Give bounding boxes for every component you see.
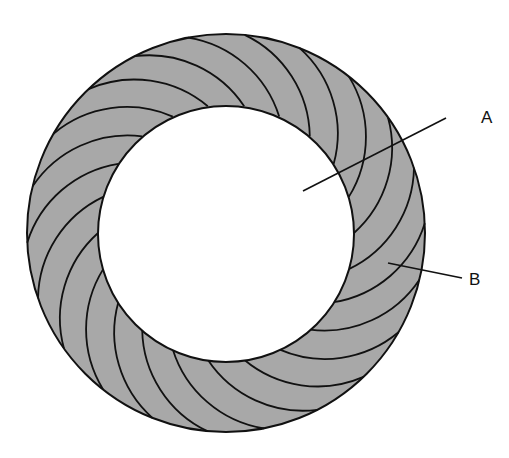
turbine-ring-diagram: A B	[0, 0, 509, 458]
center-hole	[98, 106, 354, 362]
label-a: A	[481, 108, 493, 127]
label-b: B	[469, 270, 480, 289]
